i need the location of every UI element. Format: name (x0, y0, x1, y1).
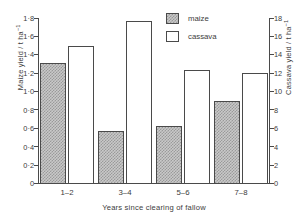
y-tick-left-2: 0·4 (23, 144, 34, 151)
y-tick-left-3: 0·6 (23, 125, 34, 132)
tick-mark-right-9 (270, 18, 274, 19)
y-tick-right-6: 12 (274, 70, 282, 77)
tick-mark-right-8 (270, 36, 274, 37)
legend-label-cassava: cassava (188, 32, 217, 41)
y-tick-right-8: 16 (274, 33, 282, 40)
bar-maize-7-8 (214, 101, 240, 184)
y-tick-left-9: 1·8 (23, 15, 34, 22)
bar-chart-figure: Maize yield / t ha−1 Cassava yield / t h… (0, 0, 302, 224)
bar-cassava-3-4 (126, 21, 152, 184)
y-tick-right-3: 6 (274, 125, 278, 132)
x-axis-title: Years since clearing of fallow (38, 203, 270, 212)
bar-maize-3-4 (98, 131, 124, 184)
legend: maize cassava (166, 11, 270, 47)
bar-maize-5-6 (156, 126, 182, 184)
x-tick-label-3: 7–8 (234, 188, 247, 197)
legend-item-cassava: cassava (166, 29, 270, 44)
bar-cassava-7-8 (242, 73, 268, 184)
y-tick-left-7: 1·4 (23, 51, 34, 58)
legend-swatch-cassava-icon (166, 31, 179, 42)
bar-maize-1-2 (40, 63, 66, 184)
legend-item-maize: maize (166, 11, 270, 26)
y-axis-left-tick-labels: 0 0·2 0·4 0·6 0·8 1·0 1·2 1·4 1·6 1·8 (12, 18, 34, 184)
bar-cassava-5-6 (184, 70, 210, 184)
legend-label-maize: maize (188, 14, 209, 23)
y-tick-left-4: 0·8 (23, 107, 34, 114)
tick-mark-right-3 (270, 128, 274, 129)
x-tick-label-0: 1–2 (60, 188, 73, 197)
y-tick-left-5: 1·0 (23, 88, 34, 95)
y-tick-right-1: 2 (274, 162, 278, 169)
y-tick-right-5: 10 (274, 88, 282, 95)
x-tick-label-1: 3–4 (118, 188, 131, 197)
tick-mark-right-1 (270, 165, 274, 166)
y-axis-right-tick-labels: 0 2 4 6 8 10 12 14 16 18 (274, 18, 296, 184)
x-axis-tick-labels: 1–23–45–67–8 (38, 188, 270, 200)
y-tick-right-7: 14 (274, 51, 282, 58)
y-tick-right-4: 8 (274, 107, 278, 114)
y-tick-right-0: 0 (274, 180, 278, 187)
y-tick-left-6: 1·2 (23, 70, 34, 77)
tick-mark-right-7 (270, 54, 274, 55)
legend-swatch-maize-icon (166, 13, 179, 24)
y-tick-left-8: 1·6 (23, 33, 34, 40)
tick-mark-right-2 (270, 146, 274, 147)
bar-cassava-1-2 (68, 46, 94, 184)
x-tick-label-2: 5–6 (176, 188, 189, 197)
y-tick-right-2: 4 (274, 144, 278, 151)
tick-mark-right-4 (270, 109, 274, 110)
tick-mark-right-0 (270, 183, 274, 184)
tick-mark-right-5 (270, 91, 274, 92)
y-tick-left-1: 0·2 (23, 162, 34, 169)
tick-mark-right-6 (270, 73, 274, 74)
y-tick-right-9: 18 (274, 15, 282, 22)
